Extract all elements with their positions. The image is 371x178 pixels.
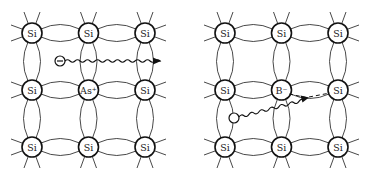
covalent-bond <box>342 42 347 81</box>
silicon-atom: Si <box>215 80 235 100</box>
atom-label: Si <box>84 142 94 153</box>
bond-stub <box>11 25 22 29</box>
p-type-lattice-panel: SiSiSiSiB⁻SiSiSiSi <box>204 12 359 168</box>
silicon-atom: Si <box>22 137 42 157</box>
covalent-bond <box>41 94 80 99</box>
covalent-bond <box>273 42 278 81</box>
atom-label: Si <box>220 28 230 39</box>
arrowhead-icon <box>301 96 310 103</box>
bond-stub <box>348 151 359 155</box>
dopant-atom: As⁺ <box>79 80 99 100</box>
covalent-bond <box>98 25 137 30</box>
covalent-bond <box>93 99 98 138</box>
silicon-atom: Si <box>215 137 235 157</box>
bond-stub <box>217 12 221 23</box>
silicon-atom: Si <box>328 23 348 43</box>
bond-stub <box>11 139 22 143</box>
bond-stub <box>155 94 166 98</box>
covalent-bond <box>41 25 80 30</box>
bond-stub <box>286 12 290 23</box>
covalent-bond <box>234 139 273 144</box>
atom-label: Si <box>27 142 37 153</box>
arrowhead-icon <box>153 58 161 65</box>
atom-label: Si <box>277 28 287 39</box>
bond-stub <box>36 157 40 168</box>
covalent-bond <box>41 37 80 42</box>
covalent-bond <box>98 94 137 99</box>
covalent-bond <box>291 139 330 144</box>
atom-label: Si <box>27 28 37 39</box>
covalent-bond <box>24 99 29 138</box>
broken-bond-dashed-line <box>289 93 330 98</box>
bond-stub <box>330 12 334 23</box>
covalent-bond <box>291 37 330 42</box>
bond-stub <box>155 82 166 86</box>
bond-stub <box>11 37 22 41</box>
covalent-bond <box>234 151 273 156</box>
covalent-bond <box>98 151 137 156</box>
electron-motion-path <box>55 56 161 66</box>
electron-wavy-trajectory <box>65 60 160 63</box>
covalent-bond <box>291 82 330 87</box>
atom-label: Si <box>140 28 150 39</box>
covalent-bond <box>80 99 85 138</box>
bond-stub <box>204 139 215 143</box>
covalent-bond <box>41 151 80 156</box>
bond-stub <box>348 82 359 86</box>
silicon-atom: Si <box>215 23 235 43</box>
bond-stub <box>274 12 278 23</box>
bond-stub <box>348 94 359 98</box>
silicon-atom: Si <box>79 23 99 43</box>
covalent-bond <box>234 82 273 87</box>
covalent-bond <box>273 99 278 138</box>
covalent-bond <box>234 25 273 30</box>
silicon-atom: Si <box>22 80 42 100</box>
covalent-bond <box>36 42 41 81</box>
covalent-bond <box>330 99 335 138</box>
covalent-bond <box>217 42 222 81</box>
bond-stub <box>24 12 28 23</box>
silicon-atom: Si <box>135 137 155 157</box>
silicon-atom: Si <box>328 80 348 100</box>
bond-stub <box>93 157 97 168</box>
bond-stub <box>204 82 215 86</box>
bond-stub <box>11 82 22 86</box>
atom-label: Si <box>220 85 230 96</box>
bond-stub <box>204 94 215 98</box>
atom-label: Si <box>140 85 150 96</box>
silicon-lattice-diagram: SiSiSiSiAs⁺SiSiSiSi SiSiSiSiB⁻SiSiSiSi <box>0 0 371 178</box>
bond-stub <box>149 157 153 168</box>
silicon-atom: Si <box>328 137 348 157</box>
bond-stub <box>330 157 334 168</box>
atom-label: Si <box>140 142 150 153</box>
bond-stub <box>348 37 359 41</box>
covalent-bond <box>229 42 234 81</box>
covalent-bond <box>330 42 335 81</box>
covalent-bond <box>98 82 137 87</box>
bond-stub <box>348 139 359 143</box>
bond-stub <box>81 157 85 168</box>
atom-label: Si <box>84 28 94 39</box>
bond-stub <box>274 157 278 168</box>
covalent-bond <box>291 25 330 30</box>
silicon-atom: Si <box>272 23 292 43</box>
covalent-bond <box>149 99 154 138</box>
hole-icon <box>229 113 239 123</box>
silicon-atom: Si <box>272 137 292 157</box>
bond-stub <box>348 25 359 29</box>
covalent-bond <box>342 99 347 138</box>
n-type-lattice-panel: SiSiSiSiAs⁺SiSiSiSi <box>11 12 166 168</box>
bond-stub <box>11 151 22 155</box>
bond-stub <box>81 12 85 23</box>
covalent-bond <box>137 99 142 138</box>
bond-stub <box>286 157 290 168</box>
covalent-bond <box>234 94 273 99</box>
atom-label: Si <box>333 142 343 153</box>
atom-label: Si <box>333 28 343 39</box>
covalent-bond <box>41 139 80 144</box>
bond-stub <box>204 25 215 29</box>
bond-stub <box>204 37 215 41</box>
atom-label: Si <box>27 85 37 96</box>
covalent-bond <box>286 42 291 81</box>
covalent-bond <box>291 151 330 156</box>
